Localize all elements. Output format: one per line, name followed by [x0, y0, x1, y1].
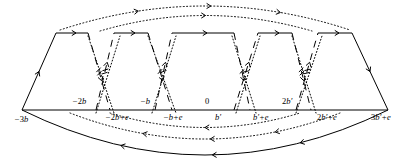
edge-tick-marks: [96, 68, 310, 76]
cross-3-b-ticks: [243, 71, 249, 72]
lbl-zero: 0: [205, 96, 209, 106]
boundary-identification-arcs: [22, 6, 388, 155]
lbl-minus-2b: −2b: [72, 96, 86, 106]
cross-4-a: [292, 33, 311, 110]
lbl-3bprime-plus-e: 3b′+e: [371, 112, 391, 122]
dot-cross-2-b: [152, 36, 176, 113]
lbl-2bprime-plus-e: 2b′+e: [317, 112, 337, 122]
lbl-minus-3b: −3b: [14, 114, 28, 124]
lbl-minus-b: −b: [140, 96, 150, 106]
top-arc-inner: [100, 16, 312, 32]
lbl-bprime-plus-e: b′+e: [253, 112, 269, 122]
cross-4-b-ticks: [304, 72, 310, 74]
top-arc-outer: [60, 6, 350, 30]
fundamental-domain-diagram: −2b−b02b′−3b−2b+e−b+eb′b′+e2b′+e3b′+e: [0, 0, 410, 164]
lbl-minus-2b-plus-e: −2b+e: [105, 112, 129, 122]
dot-cross-3-a: [232, 36, 256, 113]
lbl-2bprime: 2b′: [282, 96, 293, 106]
cross-1-a: [88, 33, 110, 110]
cross-1-b-ticks: [102, 72, 108, 74]
lbl-minus-b-plus-e: −b+e: [163, 112, 183, 122]
lbl-bprime: b′: [215, 112, 221, 122]
bottom-arc-inner-1: [110, 113, 300, 128]
